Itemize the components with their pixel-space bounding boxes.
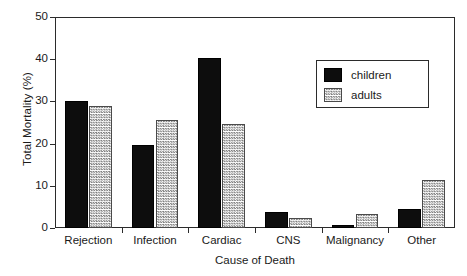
legend-label-children: children (351, 69, 391, 81)
legend-entry-adults: adults (324, 85, 428, 105)
bar-rejection-children (65, 101, 88, 228)
bar-rejection-adults (89, 106, 112, 228)
bar-chart-figure: Total Mortality (%) 01020304050 Rejectio… (0, 0, 467, 276)
bars-layer (55, 17, 455, 228)
bar-cns-children (265, 212, 288, 228)
x-axis-tick-label-rejection: Rejection (64, 234, 112, 246)
x-axis-tick-label-other: Other (407, 234, 436, 246)
legend-entry-children: children (324, 65, 428, 85)
bar-other-adults (422, 180, 445, 228)
x-axis-tick-mark (122, 228, 123, 233)
chart-legend: children adults (316, 60, 429, 108)
legend-label-adults: adults (351, 89, 382, 101)
y-axis-tick-label: 30 (24, 96, 48, 108)
x-axis-tick-mark (322, 228, 323, 233)
y-axis-tick-label: 0 (24, 222, 48, 234)
bar-infection-adults (156, 120, 179, 228)
y-axis-tick-label: 10 (24, 180, 48, 192)
legend-swatch-adults-icon (324, 88, 342, 102)
x-axis-tick-mark (188, 228, 189, 233)
bar-infection-children (132, 145, 155, 228)
x-axis-tick-mark (255, 228, 256, 233)
x-axis-tick-label-cns: CNS (276, 234, 300, 246)
x-axis-tick-labels: RejectionInfectionCardiacCNSMalignancyOt… (55, 234, 455, 252)
x-axis-tick-label-malignancy: Malignancy (326, 234, 384, 246)
x-axis-title: Cause of Death (55, 254, 455, 266)
bar-cardiac-children (198, 58, 221, 228)
bar-cns-adults (289, 218, 312, 228)
y-axis-tick-labels: 01020304050 (22, 0, 48, 276)
y-axis-tick-label: 50 (24, 11, 48, 23)
y-axis-tick-label: 20 (24, 138, 48, 150)
bar-other-children (398, 209, 421, 228)
x-axis-tick-label-cardiac: Cardiac (202, 234, 242, 246)
legend-swatch-children-icon (324, 68, 342, 82)
y-axis-tick-label: 40 (24, 53, 48, 65)
x-axis-tick-mark (388, 228, 389, 233)
bar-malignancy-adults (356, 214, 379, 228)
x-axis-tick-label-infection: Infection (133, 234, 176, 246)
bar-cardiac-adults (222, 124, 245, 228)
